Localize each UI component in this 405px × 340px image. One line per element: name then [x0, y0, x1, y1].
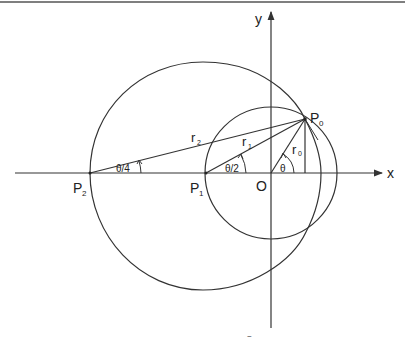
footer-mark: ~ [247, 332, 252, 340]
angle-arc-theta-half [241, 155, 246, 173]
theta-quarter-label: θ/4 [116, 163, 130, 174]
svg-text:2: 2 [82, 189, 87, 198]
svg-text:r: r [292, 142, 297, 157]
svg-text:r: r [242, 134, 247, 149]
p0-label: P 0 [310, 110, 324, 128]
theta-label: θ [280, 163, 286, 174]
r0-label: r 0 [292, 142, 302, 157]
point-p0 [303, 117, 307, 121]
theta-half-label: θ/2 [225, 163, 239, 174]
p1-label: P 1 [190, 180, 204, 198]
svg-text:1: 1 [248, 143, 252, 150]
r1-label: r 1 [242, 134, 252, 150]
r2-label: r 2 [191, 130, 201, 146]
svg-text:2: 2 [197, 139, 201, 146]
point-p2 [89, 172, 92, 175]
point-p1 [205, 172, 208, 175]
svg-text:P: P [190, 180, 199, 196]
p2-label: P 2 [73, 180, 87, 198]
x-axis-label: x [387, 165, 394, 181]
svg-text:P: P [73, 180, 82, 196]
geometry-diagram: y x O P 0 P 1 P 2 r 2 r 1 r 0 θ/4 θ/2 θ … [0, 0, 405, 340]
origin-label: O [256, 178, 267, 194]
svg-text:r: r [191, 130, 196, 145]
svg-text:P: P [310, 110, 319, 126]
r1-line [206, 119, 305, 173]
svg-text:0: 0 [298, 150, 302, 157]
r0-line [271, 119, 305, 173]
y-axis-label: y [255, 11, 262, 27]
svg-text:1: 1 [199, 189, 204, 198]
svg-text:0: 0 [319, 119, 324, 128]
